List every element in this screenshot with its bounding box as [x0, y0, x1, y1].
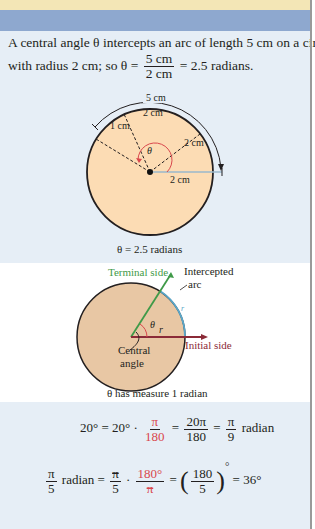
- 180deg-over-pi: 180° π: [136, 467, 165, 495]
- initial-side-label: Initial side: [185, 339, 232, 351]
- pi-over-9: π 9: [226, 415, 237, 443]
- radius-r-label: r: [159, 324, 163, 335]
- 180-over-5: 180 5: [191, 467, 215, 495]
- intercepted-arc-label-line1: Intercepted: [184, 265, 233, 277]
- intercepted-arc-label-line2: arc: [188, 278, 201, 290]
- central-angle-label-line1: Central: [118, 344, 150, 356]
- 20pi-over-180: 20π 180: [184, 415, 208, 443]
- deg-lhs: 20° = 20° ·: [80, 420, 138, 435]
- arc-r-label: r: [181, 304, 184, 313]
- figure2-caption: θ has measure 1 radian: [107, 387, 208, 399]
- deg-to-rad-equation: 20° = 20° · π 180 = 20π 180 = π 9 radian: [80, 415, 274, 443]
- pi-over-5: π 5: [46, 467, 57, 495]
- terminal-side-label: Terminal side: [108, 266, 168, 278]
- central-angle-label-line2: angle: [120, 357, 144, 369]
- right-border-rule: [310, 0, 312, 529]
- pi-over-180: π 180: [143, 415, 167, 443]
- theta-symbol-2: θ: [150, 319, 155, 330]
- rad-to-deg-equation: π 5 radian = π 5 · 180° π = ( 180 5 )° =…: [44, 460, 261, 495]
- cancelled-pi-over-5: π 5: [110, 467, 121, 495]
